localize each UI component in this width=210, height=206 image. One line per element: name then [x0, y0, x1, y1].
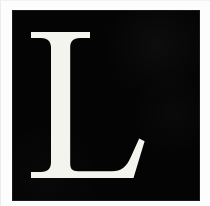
letter-tile: L	[13, 11, 199, 200]
image-canvas: L	[0, 0, 210, 206]
letter-l-outline	[31, 32, 145, 178]
letter-l-glyph: L	[13, 11, 199, 200]
